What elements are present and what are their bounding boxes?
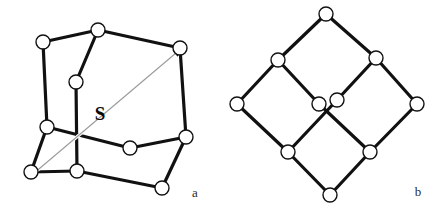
graph-node <box>410 97 424 111</box>
graph-node <box>173 41 187 55</box>
graph-node <box>24 165 38 179</box>
graph-edge <box>330 152 370 195</box>
graph-node <box>312 97 326 111</box>
graph-node <box>230 97 244 111</box>
graph-edge <box>47 127 130 148</box>
graph-node <box>91 23 105 37</box>
graph-node <box>123 141 137 155</box>
graph-node <box>36 35 50 49</box>
graph-edge <box>278 60 319 104</box>
figure-root: S a b <box>0 0 440 213</box>
graph-edge <box>337 58 376 100</box>
graph-node <box>155 181 169 195</box>
graph-edge <box>76 82 77 171</box>
graph-edge <box>130 137 186 148</box>
graph-node <box>323 188 337 202</box>
panel-b-edges <box>237 14 417 195</box>
graph-edge <box>278 14 326 60</box>
panel-b: b <box>230 7 424 202</box>
graph-node <box>40 120 54 134</box>
graph-edge <box>237 104 288 152</box>
figure-canvas: S a b <box>0 0 440 213</box>
graph-node <box>369 51 383 65</box>
panel-b-caption: b <box>415 184 422 199</box>
graph-node <box>330 93 344 107</box>
graph-node <box>363 145 377 159</box>
graph-node <box>281 145 295 159</box>
panel-a-caption: a <box>192 185 198 200</box>
graph-edge <box>237 60 278 104</box>
panel-a: S a <box>24 23 198 200</box>
graph-node <box>319 7 333 21</box>
graph-edge <box>162 137 186 188</box>
graph-edge <box>43 30 98 42</box>
graph-edge <box>376 58 417 104</box>
graph-edge <box>370 104 417 152</box>
graph-edge <box>288 152 330 195</box>
graph-node <box>70 164 84 178</box>
graph-edge <box>43 42 47 127</box>
graph-node <box>69 75 83 89</box>
graph-node <box>179 130 193 144</box>
graph-edge <box>180 48 186 137</box>
graph-node <box>271 53 285 67</box>
graph-edge <box>326 14 376 58</box>
graph-edge <box>77 171 162 188</box>
panel-b-nodes <box>230 7 424 202</box>
graph-edge <box>76 30 98 82</box>
graph-edge <box>98 30 180 48</box>
symmetry-axis-label: S <box>95 103 106 124</box>
